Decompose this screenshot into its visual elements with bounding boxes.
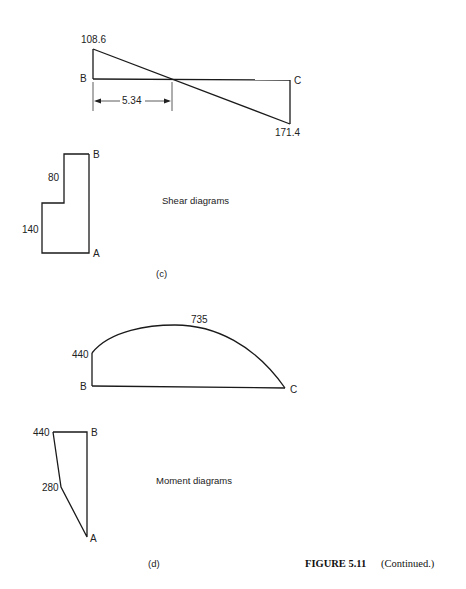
beam-moment-curve — [92, 325, 285, 388]
beam-shear-crossing-distance: 5.34 — [122, 95, 142, 106]
shear-caption: Shear diagrams — [162, 195, 229, 206]
dimension-arrow-left-icon — [94, 99, 101, 104]
beam-shear-node-b: B — [80, 73, 87, 84]
beam-moment-node-c: C — [290, 384, 297, 395]
dimension-arrow-right-icon — [164, 99, 171, 104]
column-shear-lower-value: 140 — [22, 224, 39, 235]
beam-moment-diagram — [92, 325, 285, 388]
figure-canvas: 108.6 B C 171.4 5.34 B A 80 140 Shear di… — [0, 0, 466, 589]
column-shear-diagram — [42, 154, 89, 253]
moment-part-label: (d) — [148, 558, 160, 569]
column-moment-node-b: B — [91, 427, 98, 438]
shear-part-label: (c) — [156, 268, 167, 279]
beam-moment-baseline — [92, 386, 285, 388]
beam-shear-slope — [93, 49, 290, 124]
moment-caption: Moment diagrams — [156, 475, 232, 486]
column-moment-top-value: 440 — [33, 427, 50, 438]
column-shear-node-b: B — [93, 149, 100, 160]
column-moment-mid-value: 280 — [42, 482, 59, 493]
beam-shear-left-value: 108.6 — [81, 34, 106, 45]
column-moment-node-a: A — [90, 533, 97, 544]
beam-shear-right-value: 171.4 — [275, 127, 300, 138]
column-shear-outline — [42, 154, 89, 253]
beam-moment-node-b: B — [80, 381, 87, 392]
beam-shear-baseline — [93, 79, 290, 80]
beam-shear-diagram — [93, 49, 290, 124]
beam-moment-max-value: 735 — [191, 314, 208, 325]
beam-shear-node-c: C — [294, 75, 301, 86]
figure-continuation: (Continued.) — [381, 558, 435, 570]
column-shear-node-a: A — [93, 248, 100, 259]
beam-moment-left-value: 440 — [72, 349, 89, 360]
figure-label: FIGURE 5.11 — [305, 558, 366, 569]
column-shear-upper-value: 80 — [48, 172, 60, 183]
